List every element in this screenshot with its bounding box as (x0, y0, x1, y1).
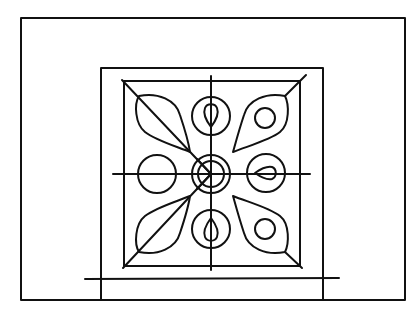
base-line (85, 278, 339, 279)
leaf-top-right (233, 95, 288, 152)
leaf-bottom-right (233, 196, 288, 253)
medallion-left (138, 155, 176, 193)
small-circle-icon (255, 108, 275, 128)
outer-frame (21, 18, 405, 300)
ornament-diagram (0, 0, 419, 328)
medallion-bottom (192, 210, 230, 248)
diagonal-top-right-stub (285, 75, 306, 96)
medallion-top (192, 97, 230, 135)
small-circle-icon (255, 219, 275, 239)
